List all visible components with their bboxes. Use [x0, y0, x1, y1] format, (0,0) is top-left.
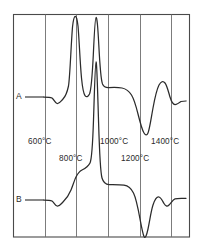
plot-canvas	[0, 0, 202, 251]
x-tick-label-1400c: 1400°C	[151, 138, 179, 146]
curve-label-a: A	[16, 92, 22, 101]
x-tick-label-1200c: 1200°C	[121, 155, 149, 163]
x-tick-label-800c: 800°C	[59, 155, 83, 163]
dta-thermogram-figure: 600°C 800°C 1000°C 1200°C 1400°C A B	[0, 0, 202, 251]
plot-frame	[14, 15, 190, 238]
curve-label-b: B	[16, 195, 22, 204]
x-tick-label-600c: 600°C	[28, 138, 52, 146]
x-tick-label-1000c: 1000°C	[100, 138, 128, 146]
